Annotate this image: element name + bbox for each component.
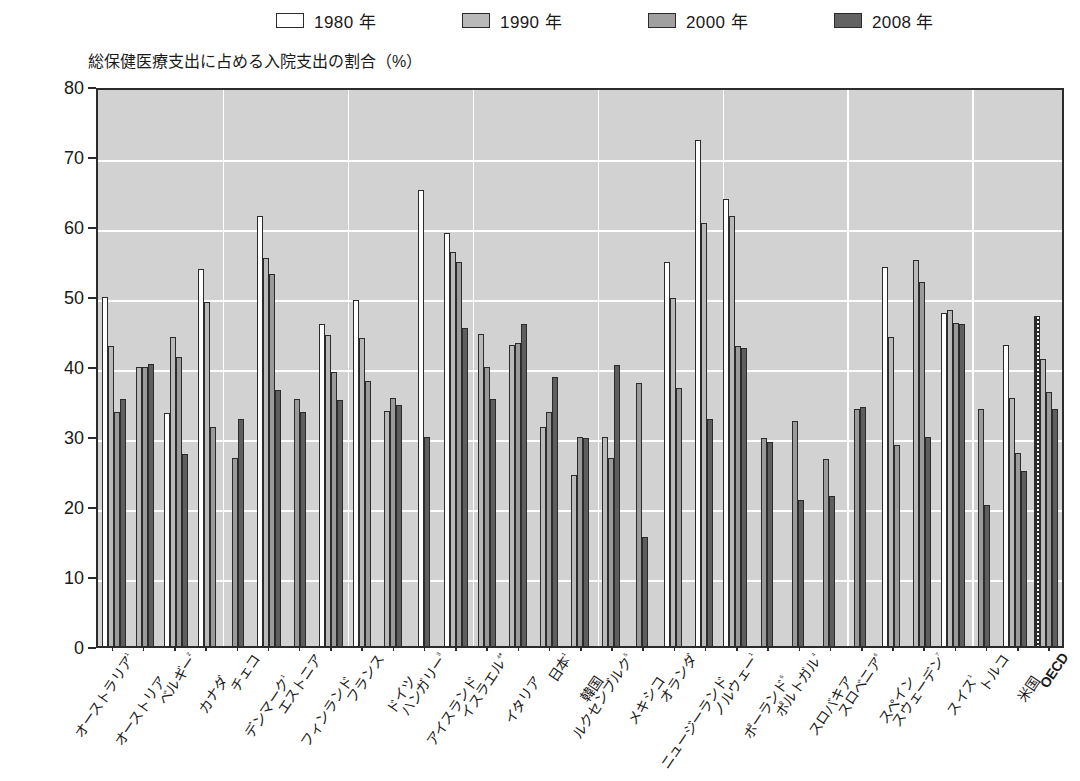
x-axis-tickmark	[205, 646, 207, 651]
bar-2008年-フィンランド	[337, 400, 343, 646]
x-axis-tickmark	[112, 646, 114, 651]
x-axis-tickmark	[518, 646, 520, 651]
x-axis-tickmark	[424, 646, 426, 651]
y-axis-tickmark	[88, 367, 96, 369]
x-axis-tickmark	[799, 646, 801, 651]
y-axis-tickmark	[88, 87, 96, 89]
bar-group	[564, 90, 595, 646]
bar-2008年-トルコ	[984, 505, 990, 646]
bar-2008年-ルクセンブルク⁵	[614, 365, 620, 646]
bar-group	[409, 90, 440, 646]
y-axis-tick-label: 0	[74, 638, 84, 659]
bar-2008年-スロベニア⁶	[860, 407, 866, 646]
bar-group	[502, 90, 533, 646]
footnote-marker: ⁷	[934, 651, 944, 659]
y-axis-tickmark	[88, 227, 96, 229]
bar-group	[253, 90, 284, 646]
legend-label-2008: 2008 年	[872, 8, 934, 33]
bar-2008年-ベルギー²	[182, 454, 188, 647]
bars-layer	[98, 90, 1062, 646]
x-axis-tickmark	[361, 646, 363, 651]
y-axis-tick-label: 60	[64, 218, 84, 239]
y-axis-tickmark	[88, 297, 96, 299]
bar-group	[875, 90, 906, 646]
x-axis-tickmark	[611, 646, 613, 651]
bar-2008年-メキシコ	[642, 537, 648, 646]
x-axis-tickmark	[1048, 646, 1050, 651]
y-axis-tick-label: 10	[64, 568, 84, 589]
x-axis-tickmark	[986, 646, 988, 651]
bar-group	[844, 90, 875, 646]
y-axis-tickmark	[88, 157, 96, 159]
bar-group	[347, 90, 378, 646]
legend-item-1990: 1990 年	[462, 8, 562, 33]
bar-group	[316, 90, 347, 646]
footnote-marker: ⁶	[871, 651, 881, 659]
footnote-marker: ¹	[965, 673, 975, 681]
bar-group	[1000, 90, 1031, 646]
plot-area	[96, 88, 1064, 648]
bar-group	[658, 90, 689, 646]
bar-group	[1031, 90, 1062, 646]
x-axis-tickmark	[1017, 646, 1019, 651]
x-axis-tickmark	[674, 646, 676, 651]
bar-2008年-スイス¹	[959, 324, 965, 646]
x-axis-tickmark	[268, 646, 270, 651]
bar-group	[689, 90, 720, 646]
bar-2008年-アイスランド	[462, 328, 468, 647]
footnote-marker: ⁵	[621, 651, 631, 659]
bar-2000年-スペイン	[894, 445, 900, 646]
footnote-marker: ³	[434, 651, 444, 659]
x-axis-tickmark	[330, 646, 332, 651]
bar-group	[285, 90, 316, 646]
x-axis-tickmark	[923, 646, 925, 651]
x-axis-tickmark	[393, 646, 395, 651]
x-axis-labels: オーストラリア¹オーストリアベルギー²カナダチェコデンマーク¹エストニアフィンラ…	[96, 650, 1064, 781]
footnote-marker: ⁴	[809, 651, 819, 659]
x-axis-tickmark	[143, 646, 145, 651]
x-axis-label: チェコ	[224, 650, 263, 695]
bar-2008年-米国	[1021, 471, 1027, 646]
x-axis-tickmark	[830, 646, 832, 651]
bar-2000年-オランダ	[676, 388, 682, 646]
y-axis: 01020304050607080	[0, 88, 96, 648]
bar-2008年-スウェーデン⁷	[925, 437, 931, 646]
bar-2008年-ニュージーランド	[707, 419, 713, 646]
y-axis-tickmark	[88, 647, 96, 649]
x-axis-tickmark	[486, 646, 488, 651]
bar-group	[938, 90, 969, 646]
footnote-marker: ¹	[559, 651, 569, 659]
legend-item-1980: 1980 年	[276, 8, 376, 33]
bar-group	[813, 90, 844, 646]
x-axis-tickmark	[237, 646, 239, 651]
footnote-marker: ¹	[747, 651, 757, 659]
x-axis-tickmark	[580, 646, 582, 651]
y-axis-tick-label: 80	[64, 78, 84, 99]
x-axis-tickmark	[861, 646, 863, 651]
bar-group	[533, 90, 564, 646]
x-axis-label: 日本¹	[542, 650, 575, 686]
bar-group	[627, 90, 658, 646]
x-axis-tickmark	[892, 646, 894, 651]
x-axis-label: OECD	[1037, 650, 1072, 691]
bar-group	[782, 90, 813, 646]
bar-2008年-スロバキア	[829, 496, 835, 647]
bar-2008年-エストニア	[300, 412, 306, 646]
bar-2008年-ドイツ	[396, 405, 402, 646]
legend-swatch-2008	[834, 13, 862, 28]
footnote-marker: ²	[185, 651, 195, 659]
bar-2008年-デンマーク¹	[275, 390, 281, 646]
x-axis-tickmark	[455, 646, 457, 651]
x-axis-tickmark	[299, 646, 301, 651]
bar-2008年-チェコ	[238, 419, 244, 647]
bar-2008年-ポルトガル⁴	[798, 500, 804, 646]
bar-2008年-オーストリア	[148, 364, 154, 646]
bar-group	[222, 90, 253, 646]
y-axis-title: 総保健医療支出に占める入院支出の割合（%）	[88, 48, 422, 72]
x-axis-tickmark	[549, 646, 551, 651]
bar-2000年-フランス	[365, 381, 371, 646]
bar-group	[596, 90, 627, 646]
bar-group	[129, 90, 160, 646]
bar-2008年-ノルウェー¹	[741, 348, 747, 646]
footnote-marker: ⁶	[777, 673, 787, 681]
